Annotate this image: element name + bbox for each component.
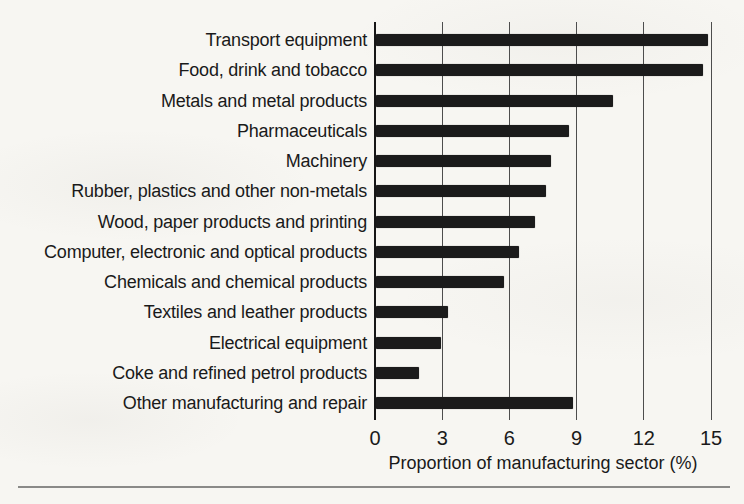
x-axis-title: Proportion of manufacturing sector (%) xyxy=(375,451,711,475)
bar xyxy=(376,34,708,46)
category-label: Transport equipment xyxy=(0,29,367,51)
category-label: Metals and metal products xyxy=(0,90,367,112)
category-label: Textiles and leather products xyxy=(0,301,367,323)
bar xyxy=(376,95,613,107)
bar xyxy=(376,246,519,258)
bar xyxy=(376,64,703,76)
x-tick-label: 3 xyxy=(418,427,466,449)
gridline-x15 xyxy=(711,22,712,420)
page-divider-rule xyxy=(18,486,730,488)
bar xyxy=(376,155,551,167)
category-label: Electrical equipment xyxy=(0,332,367,354)
bar xyxy=(376,276,504,288)
gridline-x12 xyxy=(643,22,644,420)
gridline-x9 xyxy=(576,22,577,420)
x-tick-label: 15 xyxy=(687,427,735,449)
x-tick-label: 12 xyxy=(620,427,668,449)
bar xyxy=(376,397,573,409)
x-tick-label: 0 xyxy=(351,427,399,449)
category-label: Coke and refined petrol products xyxy=(0,362,367,384)
category-label: Food, drink and tobacco xyxy=(0,59,367,81)
category-label: Wood, paper products and printing xyxy=(0,211,367,233)
category-label: Computer, electronic and optical product… xyxy=(0,241,367,263)
bar xyxy=(376,125,569,137)
bar xyxy=(376,337,441,349)
bar xyxy=(376,306,448,318)
bar xyxy=(376,367,419,379)
x-tick-label: 6 xyxy=(485,427,533,449)
category-label: Other manufacturing and repair xyxy=(0,392,367,414)
category-label: Pharmaceuticals xyxy=(0,120,367,142)
bar xyxy=(376,185,546,197)
x-tick-label: 9 xyxy=(553,427,601,449)
bar-chart: Transport equipmentFood, drink and tobac… xyxy=(0,0,744,504)
bar xyxy=(376,216,535,228)
category-label: Rubber, plastics and other non-metals xyxy=(0,180,367,202)
category-label: Machinery xyxy=(0,150,367,172)
category-label: Chemicals and chemical products xyxy=(0,271,367,293)
scanned-page: Transport equipmentFood, drink and tobac… xyxy=(0,0,744,504)
